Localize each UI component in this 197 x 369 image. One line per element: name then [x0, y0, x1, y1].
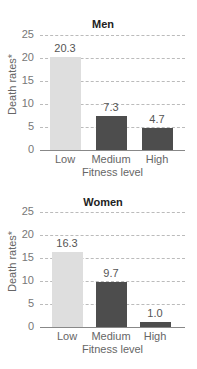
x-axis-title: Fitness level: [40, 166, 185, 178]
x-tick-label: High: [130, 330, 180, 342]
y-tick-label: 5: [10, 297, 34, 309]
plot-area: Death rates* 25 20 15 10 5 0 16.3 9.7 1.…: [40, 212, 185, 327]
y-tick-label: 10: [10, 274, 34, 286]
x-axis-title: Fitness level: [40, 343, 185, 355]
bar-low: [52, 252, 83, 327]
bar-low: [50, 57, 81, 150]
y-tick-label: 0: [10, 320, 34, 332]
value-label: 16.3: [47, 237, 87, 249]
chart-title: Women: [28, 196, 178, 208]
value-label: 9.7: [91, 267, 131, 279]
x-tick-label: Low: [40, 153, 90, 165]
value-label: 7.3: [91, 101, 131, 113]
y-tick-label: 10: [10, 97, 34, 109]
y-tick-label: 15: [10, 251, 34, 263]
value-label: 4.7: [137, 113, 177, 125]
chart-title: Men: [28, 18, 178, 30]
y-tick-label: 25: [10, 205, 34, 217]
bar-medium: [96, 116, 127, 150]
y-tick-label: 25: [10, 28, 34, 40]
x-tick-label: Low: [42, 330, 92, 342]
x-tick-label: High: [132, 153, 182, 165]
x-axis-line: [40, 327, 185, 328]
x-axis-line: [40, 150, 185, 151]
bar-medium: [96, 282, 127, 327]
y-tick-label: 20: [10, 228, 34, 240]
women-chart: Women Death rates* 25 20 15 10 5 0 16.3 …: [0, 183, 197, 363]
y-tick-label: 20: [10, 51, 34, 63]
y-tick-label: 0: [10, 143, 34, 155]
value-label: 1.0: [135, 307, 175, 319]
men-chart: Men Death rates* 25 20 15 10 5 0 20.3 7.…: [0, 0, 197, 180]
plot-area: Death rates* 25 20 15 10 5 0 20.3 7.3 4.…: [40, 35, 185, 150]
bar-high: [142, 128, 173, 150]
value-label: 20.3: [45, 42, 85, 54]
bar-high: [140, 322, 171, 327]
y-tick-label: 5: [10, 120, 34, 132]
x-tick-label: Medium: [86, 153, 136, 165]
x-tick-label: Medium: [86, 330, 136, 342]
y-tick-label: 15: [10, 74, 34, 86]
